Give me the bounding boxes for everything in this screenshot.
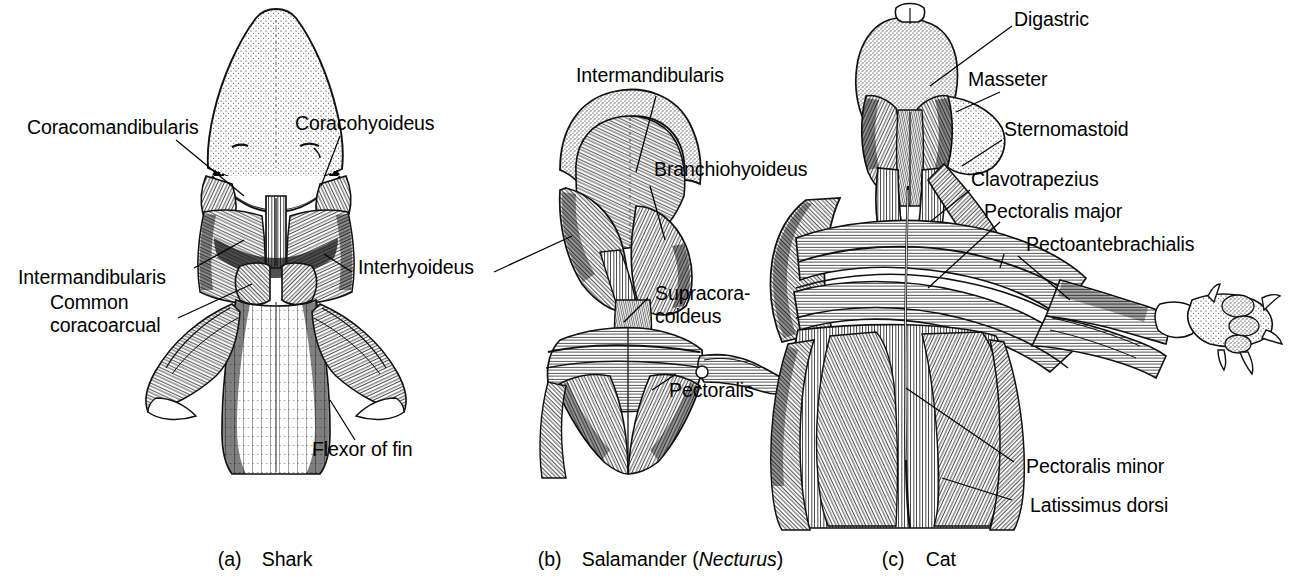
label-latissimus-dorsi: Latissimus dorsi xyxy=(1030,494,1168,517)
label-common: Common xyxy=(50,291,129,314)
caption-b-text-post: ) xyxy=(777,548,784,570)
figure-root: Coracomandibularis Coracohyoideus Interm… xyxy=(0,0,1312,587)
caption-b-text-italic: Necturus xyxy=(699,548,777,570)
caption-panel-b: (b)Salamander (Necturus) xyxy=(516,525,783,587)
label-intermandibularis-salamander: Intermandibularis xyxy=(576,64,724,87)
label-pectoralis-minor: Pectoralis minor xyxy=(1026,455,1164,478)
label-interhyoideus: Interhyoideus xyxy=(358,256,474,279)
caption-panel-a: (a)Shark xyxy=(196,525,313,587)
label-coracomandibularis: Coracomandibularis xyxy=(27,116,199,139)
label-sternomastoid: Sternomastoid xyxy=(1004,118,1128,141)
label-masseter: Masseter xyxy=(968,68,1047,91)
caption-c-text: Cat xyxy=(926,548,956,570)
label-pectoantebrachialis: Pectoantebrachialis xyxy=(1026,233,1194,256)
label-intermandibularis-shark: Intermandibularis xyxy=(18,266,166,289)
label-supracoracoideus-line1: Supracora- xyxy=(655,282,750,305)
label-flexor-of-fin: Flexor of fin xyxy=(312,438,413,461)
caption-a-tag: (a) xyxy=(218,548,262,571)
label-branchiohyoideus: Branchiohyoideus xyxy=(654,158,807,181)
label-pectoralis-salamander: Pectoralis xyxy=(669,379,754,402)
label-pectoralis-major: Pectoralis major xyxy=(984,200,1122,223)
caption-panel-c: (c)Cat xyxy=(860,525,956,587)
caption-a-text: Shark xyxy=(262,548,313,570)
label-supracoracoideus-line2: coideus xyxy=(655,305,722,328)
caption-b-tag: (b) xyxy=(538,548,582,571)
label-clavotrapezius: Clavotrapezius xyxy=(971,168,1099,191)
caption-c-tag: (c) xyxy=(882,548,926,571)
label-coracohyoideus: Coracohyoideus xyxy=(295,112,435,135)
label-coracoarcual: coracoarcual xyxy=(50,314,160,337)
caption-b-text-pre: Salamander ( xyxy=(582,548,699,570)
label-digastric: Digastric xyxy=(1014,8,1089,31)
